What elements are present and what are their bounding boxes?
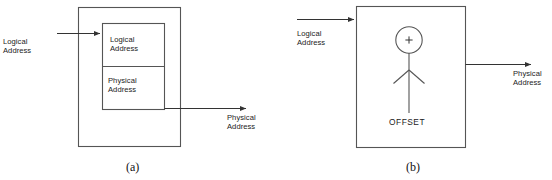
panel-b-output-label-line2: Address <box>513 78 541 87</box>
panel-a-input-label: LogicalAddress <box>3 37 31 55</box>
panel-a-inner-top-label: LogicalAddress <box>110 35 138 53</box>
panel-a-inner-bottom-label-line2: Address <box>108 85 136 94</box>
panel-a-input-label-line2: Address <box>3 46 31 55</box>
panel-a-inner-bottom-label: PhysicalAddress <box>108 76 137 94</box>
panel-b-input-label-line1: Logical <box>297 29 321 38</box>
panel-b-plus-icon <box>405 36 412 43</box>
diagram-vector-layer <box>0 0 552 180</box>
panel-b-input-label: LogicalAddress <box>297 29 325 47</box>
diagram-canvas: LogicalAddress LogicalAddress PhysicalAd… <box>0 0 552 180</box>
panel-a-inner-bottom-label-line1: Physical <box>108 76 137 85</box>
panel-b-offset-label: OFFSET <box>389 117 425 127</box>
panel-b-output-label-line1: Physical <box>513 69 542 78</box>
panel-a-output-label: PhysicalAddress <box>227 113 256 131</box>
panel-a-output-label-line2: Address <box>227 122 255 131</box>
panel-a-input-label-line1: Logical <box>3 37 27 46</box>
panel-b-input-label-line2: Address <box>297 38 325 47</box>
panel-a-output-label-line1: Physical <box>227 113 256 122</box>
panel-a-inner-top-label-line1: Logical <box>110 35 134 44</box>
panel-a-caption: (a) <box>126 160 139 175</box>
panel-b-output-label: PhysicalAddress <box>513 69 542 87</box>
panel-a-inner-top-label-line2: Address <box>110 44 138 53</box>
panel-b-caption: (b) <box>406 160 420 175</box>
